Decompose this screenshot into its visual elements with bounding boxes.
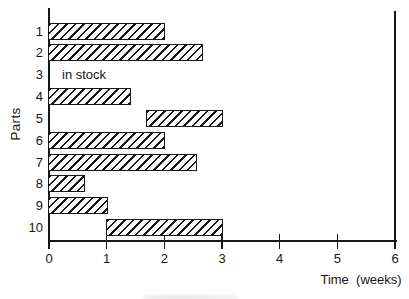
part-label: 6 [16,132,43,149]
gantt-bar [48,132,165,149]
part-label: 1 [16,23,43,40]
in-stock-note: in stock [62,67,106,84]
gantt-bar [48,154,197,171]
part-label: 2 [16,44,43,61]
x-tick-label: 5 [326,252,348,266]
x-tick [221,234,223,249]
cropped-caption-artifact [143,295,238,299]
part-label: 10 [16,219,43,236]
x-tick-label: 4 [269,252,291,266]
part-label: 4 [16,88,43,105]
x-tick-label: 1 [96,252,118,266]
gantt-bar [106,219,223,236]
x-axis-title: Time (weeks) [320,272,402,287]
gantt-bar [48,44,203,61]
gantt-bar [146,110,223,127]
gantt-chart: Parts 0123456 123in stock45678910 Time (… [0,0,409,299]
part-label: 5 [16,110,43,127]
x-tick [164,234,166,249]
x-tick [279,234,281,249]
x-tick-label: 2 [153,252,175,266]
x-tick [106,234,108,249]
x-tick [337,234,339,249]
gantt-bar [48,88,131,105]
part-label: 8 [16,175,43,192]
gantt-bar [48,23,165,40]
part-label: 3 [16,66,43,83]
gantt-bar [48,197,108,214]
part-label: 7 [16,154,43,171]
right-boundary-line [394,11,396,249]
x-tick-label: 0 [38,252,60,266]
gantt-bar [48,175,85,192]
x-tick-label: 6 [384,252,406,266]
part-label: 9 [16,197,43,214]
x-tick-label: 3 [211,252,233,266]
